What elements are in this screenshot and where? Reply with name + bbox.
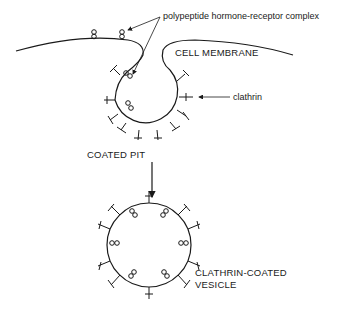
endocytosis-diagram (0, 0, 339, 320)
coated-pit-membrane (115, 70, 178, 123)
vesicle-label-line2: VESICLE (195, 280, 237, 290)
vesicle-membrane (107, 203, 191, 287)
pit-clathrin (104, 65, 193, 140)
vesicle-receptor-complexes (110, 209, 189, 279)
clathrin-label: clathrin (233, 93, 262, 102)
coated-pit-label: COATED PIT (87, 150, 145, 160)
complex-pointer-2 (133, 17, 160, 74)
vesicle-label-line1: CLATHRIN-COATED (195, 268, 287, 278)
receptor-complex-label: polypeptide hormone-receptor complex (163, 12, 319, 21)
cell-membrane-label: CELL MEMBRANE (175, 48, 259, 58)
cell-membrane-left (16, 38, 143, 100)
